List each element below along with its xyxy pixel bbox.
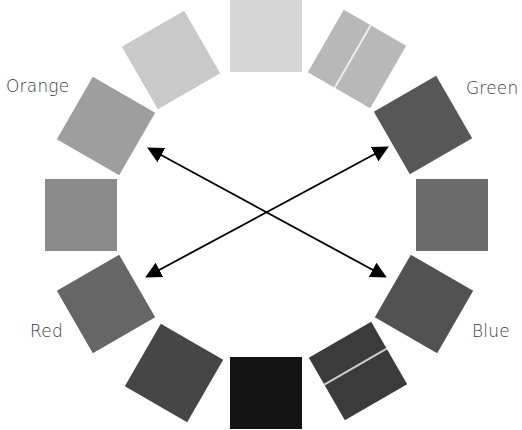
label-orange: Orange bbox=[6, 76, 69, 96]
complementary-arrows bbox=[0, 0, 522, 430]
label-green: Green bbox=[466, 78, 518, 98]
color-wheel: Orange Green Red Blue bbox=[0, 0, 522, 430]
label-blue: Blue bbox=[472, 321, 510, 341]
label-red: Red bbox=[30, 321, 63, 341]
